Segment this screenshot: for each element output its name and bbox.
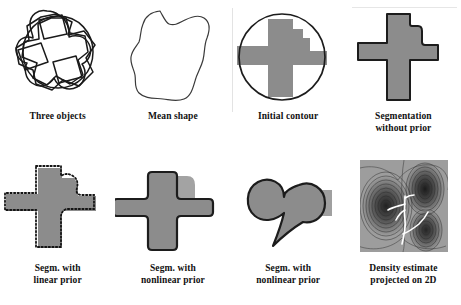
panel-caption: Segm. with nonlinear prior bbox=[141, 263, 205, 286]
panel-segm-nonlinear-prior-heart: Segm. with nonlinear prior bbox=[231, 152, 346, 305]
panel-segm-nonlinear-prior-cross: Segm. with nonlinear prior bbox=[115, 152, 230, 305]
panel-caption: Density estimate projected on 2D bbox=[369, 263, 437, 286]
panel-caption: Initial contour bbox=[258, 111, 318, 123]
figure-grid: Three objects Mean shape Initial contour bbox=[0, 0, 461, 305]
panel-caption: Three objects bbox=[29, 111, 85, 123]
panel-caption: Segm. with linear prior bbox=[33, 263, 81, 286]
panel-mean-shape: Mean shape bbox=[115, 0, 230, 152]
panel-caption: Mean shape bbox=[148, 111, 198, 123]
mean-shape-artwork bbox=[115, 2, 230, 110]
panel-three-objects: Three objects bbox=[0, 0, 115, 152]
panel-segmentation-without-prior: Segmentation without prior bbox=[346, 0, 461, 152]
three-objects-artwork bbox=[0, 2, 115, 110]
density-estimate-artwork bbox=[346, 154, 461, 262]
panel-initial-contour: Initial contour bbox=[231, 0, 346, 152]
segm-nonlinear-prior-heart-artwork bbox=[231, 154, 346, 262]
initial-contour-artwork bbox=[231, 2, 346, 110]
segm-nonlinear-prior-cross-artwork bbox=[115, 154, 230, 262]
panel-caption: Segm. with nonlinear prior bbox=[256, 263, 320, 286]
segmentation-without-prior-artwork bbox=[346, 2, 461, 110]
panel-caption: Segmentation without prior bbox=[375, 111, 432, 134]
panel-segm-linear-prior: Segm. with linear prior bbox=[0, 152, 115, 305]
segm-linear-prior-artwork bbox=[0, 154, 115, 262]
panel-density-estimate: Density estimate projected on 2D bbox=[346, 152, 461, 305]
